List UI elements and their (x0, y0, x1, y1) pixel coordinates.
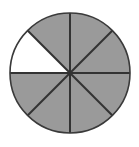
pie-fraction-figure (0, 0, 139, 147)
pie-chart-svg (0, 0, 139, 147)
